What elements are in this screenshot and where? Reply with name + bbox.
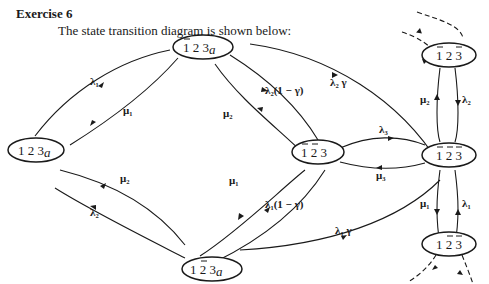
label-lambda1-c: λ₁ (462, 197, 471, 209)
label-lambda1-gamma: λ₁ γ (335, 224, 352, 236)
node-b1-b2-3: 1 2 3 (292, 140, 344, 164)
svg-text:1 2 3a: 1 2 3a (18, 143, 51, 160)
label-mu1-c: μ₁ (420, 197, 430, 209)
edge-lambda1-gamma (240, 180, 440, 250)
edge-mu1 (70, 58, 178, 145)
svg-text:1 2 3: 1 2 3 (436, 48, 462, 63)
external-edge-out-bottom (408, 255, 436, 282)
node-b1-2-3a: 1 2 3a (173, 35, 233, 59)
node-b1-2-b3: 1 2 3 (422, 43, 476, 67)
external-edge-in-top (417, 12, 463, 38)
edge-mu3 (340, 162, 425, 168)
label-mu3: μ₃ (376, 169, 386, 181)
node-123a: 1 2 3a (8, 138, 64, 162)
label-lambda2-1mg: λ₂(1 − γ) (265, 84, 304, 97)
label-lambda1: λ₁ (90, 75, 99, 87)
label-mu2-b: μ₂ (223, 107, 233, 119)
edge-mu2-c (437, 68, 440, 142)
state-transition-diagram: 1 2 3a 1 2 3a 1 2 3a 1 2 3 1 2 3 1 2 3 1… (0, 0, 489, 284)
label-mu2: μ₂ (120, 172, 130, 184)
svg-text:1 2 3a: 1 2 3a (190, 262, 223, 279)
node-b1-b2-b3: 1 2 3 (422, 143, 476, 167)
svg-text:1 2 3: 1 2 3 (301, 145, 327, 160)
label-mu2-c: μ₂ (420, 93, 430, 105)
label-lambda3: λ₃ (379, 123, 388, 135)
label-mu1: μ₁ (123, 104, 133, 116)
node-1-b2-3a: 1 2 3a (182, 257, 242, 281)
svg-text:1 2 3: 1 2 3 (436, 148, 462, 163)
label-mu1-b: μ₁ (229, 174, 239, 186)
svg-text:1 2 3a: 1 2 3a (183, 40, 216, 57)
label-lambda2: λ₂ (90, 206, 99, 218)
label-lambda2-c: λ₂ (462, 93, 471, 105)
external-edge-in-bottom (462, 255, 473, 284)
edge-lambda2-gamma (250, 44, 440, 165)
svg-text:1 2 3: 1 2 3 (436, 237, 462, 252)
label-lambda1-1mg: λ₁(1 − γ) (265, 198, 304, 211)
node-1-b2-b3: 1 2 3 (422, 232, 476, 256)
label-lambda2-gamma: λ₂ γ (330, 76, 347, 88)
edge-lambda3 (340, 138, 425, 148)
